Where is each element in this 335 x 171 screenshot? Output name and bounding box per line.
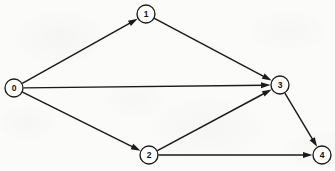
node-label-1: 1 xyxy=(144,9,149,19)
arrowhead-icon xyxy=(262,73,272,80)
node-label-4: 4 xyxy=(320,150,325,160)
graph-node-1[interactable]: 1 xyxy=(137,5,155,23)
graph-edge-0-to-2 xyxy=(23,92,141,151)
graph-edge-0-to-3 xyxy=(24,82,271,88)
arrowhead-icon xyxy=(262,89,272,96)
node-label-0: 0 xyxy=(12,83,17,93)
graph-edge-3-to-4 xyxy=(285,93,317,147)
graph-node-4[interactable]: 4 xyxy=(313,146,331,164)
nodes-layer: 01234 xyxy=(5,5,331,164)
graph-canvas: 01234 xyxy=(0,0,335,171)
arrowhead-icon xyxy=(310,137,317,147)
graph-node-3[interactable]: 3 xyxy=(271,76,289,94)
graph-edge-0-to-1 xyxy=(22,19,137,84)
node-label-3: 3 xyxy=(278,80,283,90)
node-label-2: 2 xyxy=(147,150,152,160)
graph-edge-2-to-3 xyxy=(157,89,271,150)
graph-node-0[interactable]: 0 xyxy=(5,79,23,97)
graph-edge-2-to-4 xyxy=(159,152,313,158)
graph-node-2[interactable]: 2 xyxy=(140,146,158,164)
graph-edge-1-to-3 xyxy=(154,18,271,80)
graph-figure: 01234 xyxy=(0,0,335,171)
arrowhead-icon xyxy=(303,152,313,158)
arrowhead-icon xyxy=(131,144,141,151)
arrowhead-icon xyxy=(261,82,271,88)
arrowhead-icon xyxy=(128,19,138,26)
